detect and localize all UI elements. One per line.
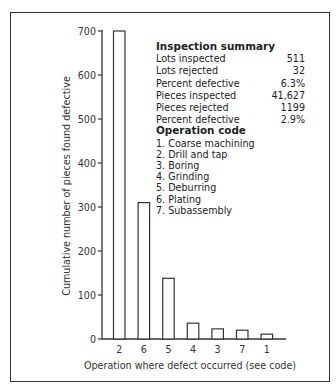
x-tick-label: 4 [190, 344, 196, 355]
bar-operation-6 [138, 203, 150, 339]
y-tick-label: 300 [78, 202, 96, 213]
x-tick-label: 7 [239, 344, 245, 355]
summary-row: Percent defective6.3% [156, 78, 305, 90]
x-axis-label: Operation where defect occurred (see cod… [84, 360, 296, 371]
operation-code-item: 3. Boring [156, 160, 255, 171]
x-tick-label: 2 [116, 344, 122, 355]
x-tick-label: 6 [141, 344, 147, 355]
bar-operation-3 [212, 329, 224, 339]
bar-operation-1 [261, 334, 273, 339]
operation-code-legend: Operation code 1. Coarse machining 2. Dr… [156, 125, 255, 216]
operation-code-item: 1. Coarse machining [156, 138, 255, 149]
y-tick-label: 400 [78, 158, 96, 169]
y-tick-label: 600 [78, 70, 96, 81]
summary-heading: Inspection summary [156, 40, 305, 52]
summary-row: Pieces inspected41,627 [156, 90, 305, 102]
x-tick-label: 3 [215, 344, 221, 355]
y-tick-label: 200 [78, 246, 96, 257]
bar-operation-4 [187, 323, 199, 339]
y-tick-label: 500 [78, 114, 96, 125]
operation-code-item: 7. Subassembly [156, 205, 255, 216]
operation-code-heading: Operation code [156, 125, 255, 136]
operation-code-item: 5. Deburring [156, 182, 255, 193]
summary-row: Pieces rejected1199 [156, 102, 305, 114]
x-tick-label: 1 [264, 344, 270, 355]
bar-operation-7 [237, 330, 249, 339]
y-tick-label: 700 [78, 26, 96, 37]
bar-operation-5 [163, 278, 175, 339]
y-tick-label: 100 [78, 290, 96, 301]
y-axis-label: Cumulative number of pieces found defect… [61, 76, 72, 296]
summary-row: Lots inspected511 [156, 53, 305, 65]
inspection-summary: Inspection summary Lots inspected511 Lot… [156, 40, 305, 126]
y-tick-label: 0 [90, 334, 96, 345]
bar-operation-2 [114, 31, 126, 339]
operation-code-item: 6. Plating [156, 194, 255, 205]
operation-code-item: 2. Drill and tap [156, 149, 255, 160]
summary-row: Lots rejected32 [156, 65, 305, 77]
operation-code-item: 4. Grinding [156, 171, 255, 182]
x-tick-label: 5 [165, 344, 171, 355]
